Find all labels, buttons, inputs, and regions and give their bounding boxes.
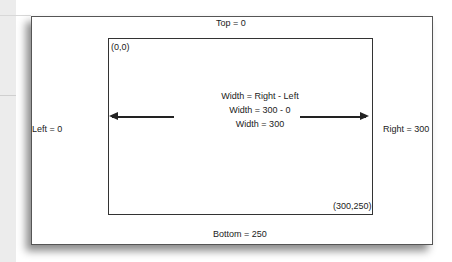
arrow-left-icon [112,116,174,118]
top-label: Top = 0 [216,18,246,28]
corner-coordinate-label: (300,250) [333,201,372,211]
formula-line-3: Width = 300 [190,117,330,131]
page-edge-divider [0,95,16,96]
width-formula: Width = Right - Left Width = 300 - 0 Wid… [190,89,330,131]
origin-coordinate-label: (0,0) [111,42,130,52]
right-label: Right = 300 [383,124,429,134]
page-edge-strip [0,0,16,262]
arrow-right-icon [300,116,366,118]
top-rule [0,15,31,16]
left-label: Left = 0 [32,124,62,134]
formula-line-2: Width = 300 - 0 [190,103,330,117]
bottom-label: Bottom = 250 [213,229,267,239]
formula-line-1: Width = Right - Left [190,89,330,103]
